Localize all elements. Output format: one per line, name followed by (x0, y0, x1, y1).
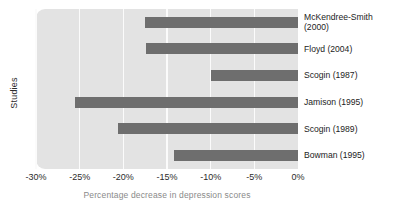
category-label: McKendree-Smith (2000) (304, 12, 406, 33)
plot-area (36, 9, 298, 169)
bar (118, 123, 298, 134)
x-tick-label: 0% (276, 172, 320, 182)
x-axis-tick-labels: -30%-25%-20%-15%-10%-5%0% (0, 172, 406, 186)
bar-row (36, 116, 298, 143)
x-tick-label: -5% (232, 172, 276, 182)
category-label: Scogin (1989) (304, 124, 406, 135)
category-label: Floyd (2004) (304, 44, 406, 55)
y-axis-title: Studies (9, 63, 19, 123)
category-label: Bowman (1995) (304, 150, 406, 161)
bar-row (36, 36, 298, 63)
bar (146, 43, 298, 54)
x-tick-label: -20% (101, 172, 145, 182)
bar (75, 97, 298, 108)
category-label: Scogin (1987) (304, 70, 406, 81)
category-labels: McKendree-Smith (2000)Floyd (2004)Scogin… (304, 9, 406, 169)
bar-row (36, 9, 298, 36)
bar (174, 150, 298, 161)
x-tick-label: -25% (58, 172, 102, 182)
bar-row (36, 89, 298, 116)
x-tick-label: -15% (145, 172, 189, 182)
bar (145, 17, 298, 28)
category-label: Jamison (1995) (304, 97, 406, 108)
x-tick-label: -10% (189, 172, 233, 182)
x-axis-title: Percentage decrease in depression scores (36, 190, 298, 200)
x-tick-label: -30% (14, 172, 58, 182)
bar-row (36, 142, 298, 169)
bar-chart: Studies -30%-25%-20%-15%-10%-5%0% Percen… (0, 0, 406, 216)
bar-row (36, 62, 298, 89)
bar (211, 70, 298, 81)
